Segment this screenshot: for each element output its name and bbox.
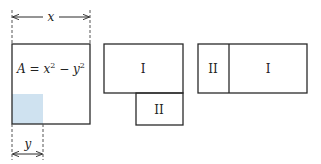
y-dimension-label: y xyxy=(24,137,32,151)
region-ii-label: II xyxy=(154,103,164,117)
x-dimension-label: x xyxy=(48,10,55,24)
region-i-label: I xyxy=(141,62,146,76)
difference-of-squares-diagram: x A = x2 − y2 y I II II I xyxy=(0,0,321,164)
shaded-y-square xyxy=(12,94,43,124)
figure-rearranged-rectangle: II I xyxy=(198,44,307,93)
region-i-label: I xyxy=(266,62,271,76)
figure-l-shape: I II xyxy=(104,44,183,125)
area-formula: A = x2 − y2 xyxy=(16,61,85,76)
figure-square: x A = x2 − y2 y xyxy=(12,10,90,160)
region-ii-label: II xyxy=(208,62,218,76)
